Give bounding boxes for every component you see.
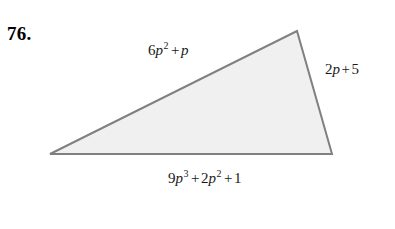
bottom-term1-exponent: 3	[183, 168, 190, 179]
top-coefficient: 6	[148, 42, 156, 58]
side-label-top: 6p2+p	[148, 43, 188, 58]
bottom-operator-2: +	[222, 170, 233, 186]
bottom-term2-variable: p	[208, 170, 216, 186]
right-operator: +	[340, 61, 351, 77]
triangle-shape	[50, 31, 332, 154]
top-operator: +	[170, 42, 181, 58]
top-exponent: 2	[163, 40, 170, 51]
right-variable: p	[333, 61, 341, 77]
top-second-term: p	[181, 42, 189, 58]
triangle-figure	[0, 0, 395, 229]
bottom-constant: 1	[234, 170, 242, 186]
bottom-operator-1: +	[190, 170, 201, 186]
side-label-right: 2p+5	[325, 62, 359, 77]
right-coefficient: 2	[325, 61, 333, 77]
bottom-term1-coefficient: 9	[168, 170, 176, 186]
bottom-term1-variable: p	[176, 170, 184, 186]
figure-page: 76. 6p2+p 2p+5 9p3+2p2+1	[0, 0, 395, 229]
right-constant: 5	[351, 61, 359, 77]
top-variable: p	[156, 42, 164, 58]
side-label-bottom: 9p3+2p2+1	[168, 171, 241, 186]
